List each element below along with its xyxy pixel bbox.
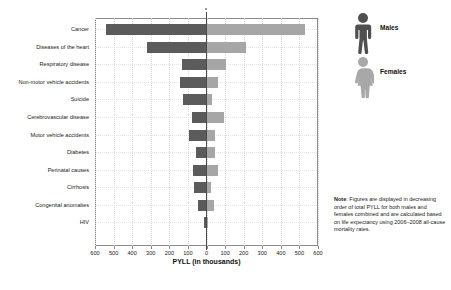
x-axis-tick-label: 500 xyxy=(295,250,304,256)
category-label: Congenital anomalies xyxy=(35,200,89,211)
bar-male xyxy=(189,130,207,141)
x-axis-tick xyxy=(188,246,189,249)
category-label: Diabetes xyxy=(67,147,89,158)
note-label: Note xyxy=(334,196,346,202)
x-axis-tick-label: 100 xyxy=(220,250,229,256)
legend-label-males: Males xyxy=(380,24,398,31)
legend-item-females[interactable]: Females xyxy=(352,56,448,100)
category-label: Diseases of the heart xyxy=(36,42,89,53)
x-axis-tick-label: 600 xyxy=(90,250,99,256)
bar-male xyxy=(192,112,207,123)
x-axis-tick xyxy=(114,246,115,249)
x-axis-tick-label: 500 xyxy=(109,250,118,256)
x-axis-title: PYLL (in thousands) xyxy=(95,258,318,265)
legend: Males Females xyxy=(352,12,448,100)
bar-female xyxy=(207,200,214,211)
bar-female xyxy=(207,94,213,105)
note-text: Figures are displayed in decreasing orde… xyxy=(334,196,445,232)
legend-label-females: Females xyxy=(380,68,406,75)
bar-male xyxy=(106,24,206,35)
x-axis-tick-label: 200 xyxy=(165,250,174,256)
category-label: HIV xyxy=(80,217,89,228)
x-axis-tick xyxy=(262,246,263,249)
bar-male xyxy=(182,59,206,70)
x-axis-tick xyxy=(95,246,96,249)
bar-male xyxy=(193,165,207,176)
bar-male xyxy=(183,94,206,105)
category-label: Perinatal causes xyxy=(48,165,89,176)
x-axis-tick-label: 0 xyxy=(205,250,208,256)
x-axis-tick-label: 200 xyxy=(239,250,248,256)
legend-item-males[interactable]: Males xyxy=(352,12,448,56)
chart-note: Note: Figures are displayed in decreasin… xyxy=(334,196,446,234)
category-label: Non-motor vehicle accidents xyxy=(18,77,89,88)
bar-female xyxy=(207,112,225,123)
zero-axis-line xyxy=(206,12,207,250)
x-axis-tick xyxy=(318,246,319,249)
x-axis-tick xyxy=(151,246,152,249)
plot-area: CancerDiseases of the heartRespiratory d… xyxy=(95,18,318,246)
bar-female xyxy=(207,59,227,70)
top-center-marker xyxy=(205,8,207,10)
bar-male xyxy=(194,182,206,193)
x-axis-tick-label: 400 xyxy=(276,250,285,256)
bar-male xyxy=(147,42,206,53)
category-label: Cirrhosis xyxy=(67,182,89,193)
x-axis-tick-label: 600 xyxy=(313,250,322,256)
x-axis-tick xyxy=(132,246,133,249)
category-label: Suicide xyxy=(71,94,89,105)
bar-female xyxy=(207,77,218,88)
bar-female xyxy=(207,24,305,35)
x-axis-tick-label: 400 xyxy=(127,250,136,256)
male-figure-icon xyxy=(352,12,374,54)
x-axis-tick-label: 300 xyxy=(258,250,267,256)
female-figure-icon xyxy=(352,56,374,98)
bar-female xyxy=(207,147,215,158)
x-axis-tick xyxy=(207,246,208,249)
x-axis-tick xyxy=(225,246,226,249)
category-label: Cancer xyxy=(71,24,89,35)
category-label: Cerebrovascular disease xyxy=(27,112,89,123)
category-label: Respiratory disease xyxy=(40,59,89,70)
bar-female xyxy=(207,42,247,53)
x-axis-tick-label: 100 xyxy=(183,250,192,256)
category-label: Motor vehicle accidents xyxy=(31,130,89,141)
x-axis-tick xyxy=(169,246,170,249)
x-axis-tick xyxy=(244,246,245,249)
bar-female xyxy=(207,165,218,176)
gridline xyxy=(318,18,320,246)
x-axis-tick xyxy=(281,246,282,249)
x-axis-tick xyxy=(299,246,300,249)
chart-figure: CancerDiseases of the heartRespiratory d… xyxy=(0,0,451,290)
bar-male xyxy=(180,77,207,88)
x-axis-tick-label: 300 xyxy=(146,250,155,256)
bar-female xyxy=(207,130,215,141)
